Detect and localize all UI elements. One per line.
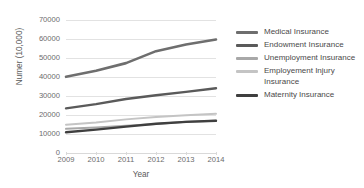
y-axis-title: Numer (10,000)	[15, 2, 24, 112]
x-axis-tick-label: 2009	[51, 155, 81, 164]
x-axis-title: Year	[66, 170, 216, 179]
series-container	[66, 20, 216, 153]
plot-area	[66, 20, 216, 153]
y-axis-tick-label: 20000	[12, 111, 60, 119]
gridline	[66, 153, 216, 154]
legend-label: Endowment Insurance	[264, 39, 344, 50]
legend-item[interactable]: Endowment Insurance	[236, 39, 364, 50]
legend-label: Employement Injury Insurance	[264, 65, 362, 87]
y-axis-tick-label: 10000	[12, 130, 60, 138]
x-axis-tick-mark	[216, 152, 217, 155]
legend-swatch	[236, 57, 258, 60]
x-axis-tick-label: 2014	[201, 155, 231, 164]
legend-label: Maternity Insurance	[264, 89, 334, 100]
legend-label: Unemployment Insurance	[264, 52, 355, 63]
x-axis-tick-mark	[186, 152, 187, 155]
legend-item[interactable]: Maternity Insurance	[236, 89, 364, 100]
series-line	[66, 88, 216, 108]
x-axis-tick-mark	[156, 152, 157, 155]
x-axis-tick-label: 2010	[81, 155, 111, 164]
legend-swatch	[236, 94, 258, 97]
x-axis-tick-label: 2012	[141, 155, 171, 164]
legend-item[interactable]: Unemployment Insurance	[236, 52, 364, 63]
x-axis-tick-mark	[96, 152, 97, 155]
legend-item[interactable]: Medical Insurance	[236, 26, 364, 37]
x-axis-ticks: 200920102011201220132014	[66, 155, 216, 167]
series-line	[66, 114, 216, 125]
legend-swatch	[236, 31, 258, 34]
chart-legend: Medical InsuranceEndowment InsuranceUnem…	[236, 26, 364, 102]
x-axis-tick-mark	[66, 152, 67, 155]
legend-swatch	[236, 70, 258, 73]
line-chart: 010000200003000040000500006000070000 Num…	[0, 0, 364, 188]
x-axis-tick-mark	[126, 152, 127, 155]
x-axis-tick-label: 2013	[171, 155, 201, 164]
series-line	[66, 40, 216, 77]
x-axis-tick-label: 2011	[111, 155, 141, 164]
legend-item[interactable]: Employement Injury Insurance	[236, 65, 364, 87]
y-axis-ticks: 010000200003000040000500006000070000	[0, 20, 60, 153]
legend-label: Medical Insurance	[264, 26, 329, 37]
legend-swatch	[236, 44, 258, 47]
